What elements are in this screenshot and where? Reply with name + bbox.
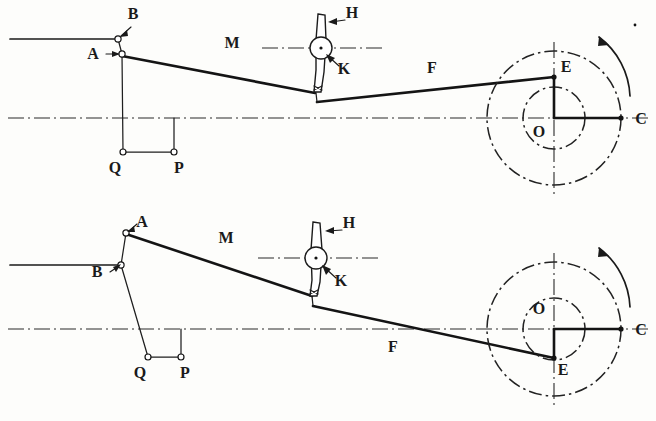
mechanism-diagram: B A M H K F E O C Q P [0, 0, 656, 421]
upper-rod-f [317, 77, 554, 102]
lower-label-h: H [343, 214, 356, 231]
lower-diagram: A B M H K F E O C Q P [8, 213, 648, 405]
upper-lever-foot-link [316, 93, 317, 102]
upper-label-a: A [87, 45, 99, 62]
lower-joint-c [618, 326, 623, 331]
lower-label-e: E [558, 361, 569, 378]
upper-label-f: F [427, 59, 437, 76]
lower-label-q: Q [134, 364, 146, 381]
mechanism-svg: B A M H K F E O C Q P [0, 0, 656, 421]
upper-joint-c [618, 115, 623, 120]
lower-joint-q [145, 354, 151, 360]
upper-pointer-a-head [112, 51, 120, 57]
upper-joint-q [120, 149, 126, 155]
lower-link-bq [121, 265, 148, 357]
lower-rotation-arrow [599, 248, 630, 307]
lower-label-c: C [635, 321, 647, 338]
lower-rotation-arrowhead [598, 248, 609, 257]
lower-label-b: B [92, 263, 103, 280]
upper-label-c: C [635, 110, 647, 127]
lower-label-f: F [388, 338, 398, 355]
lower-lever-foot-link [312, 296, 313, 306]
upper-rod-m [122, 56, 315, 93]
lower-joint-e [551, 355, 556, 360]
upper-label-b: B [128, 5, 139, 22]
upper-link-aq [122, 54, 123, 152]
upper-label-e: E [561, 58, 572, 75]
lower-pointer-a-head [127, 226, 135, 232]
upper-joint-p [171, 149, 177, 155]
lower-link-ab [121, 233, 126, 265]
upper-label-m: M [224, 34, 239, 51]
lower-pivot-k-center [314, 256, 317, 259]
upper-rotation-arrow [599, 37, 630, 96]
lower-pointer-k-head [322, 265, 331, 275]
upper-arrow-tick [634, 24, 637, 27]
upper-label-k: K [338, 60, 351, 77]
upper-label-o: O [533, 123, 545, 140]
upper-pivot-k-center [319, 46, 322, 49]
lower-label-k: K [335, 272, 348, 289]
lower-label-o: O [533, 300, 545, 317]
upper-label-p: P [174, 159, 184, 176]
lower-rod-f [313, 306, 554, 358]
lower-pointer-h-head [325, 227, 334, 234]
upper-diagram: B A M H K F E O C Q P [8, 4, 648, 194]
lower-label-a: A [136, 213, 148, 230]
upper-label-q: Q [109, 159, 121, 176]
lower-label-m: M [218, 229, 233, 246]
upper-pointer-b-head [120, 30, 128, 37]
lower-joint-p [178, 354, 184, 360]
upper-joint-e [551, 74, 556, 79]
upper-pointer-h-head [328, 18, 337, 25]
upper-rotation-arrowhead [598, 37, 609, 46]
lower-joint-a [123, 230, 129, 236]
upper-label-h: H [346, 4, 359, 21]
lower-label-p: P [180, 364, 190, 381]
